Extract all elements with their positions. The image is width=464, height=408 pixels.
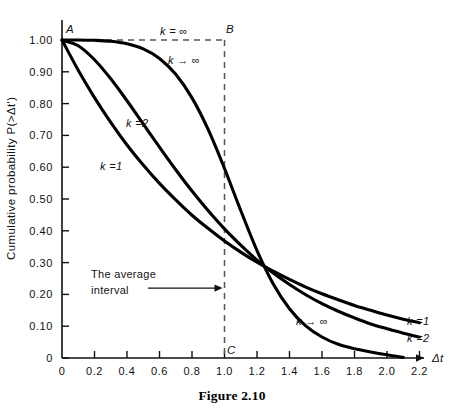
x-tick-label: 1.8 (346, 365, 363, 377)
point-label-a: A (65, 23, 74, 35)
curve-k-infinity (62, 40, 403, 357)
y-tick-label: 0.30 (29, 257, 53, 269)
y-tick-label: 0.70 (29, 129, 53, 141)
x-tick-label: 0.6 (151, 365, 168, 377)
curve-label-k-2-inline: k =2 (126, 117, 148, 129)
x-tick-label: 2.2 (411, 365, 428, 377)
x-tick-label: 0.8 (183, 365, 200, 377)
average-interval-line2: interval (91, 284, 129, 296)
x-tick-label: 1.0 (216, 365, 233, 377)
x-axis-tick-labels: 00.20.40.60.81.01.21.41.61.82.02.2 (59, 365, 428, 377)
figure-root: 00.100.200.300.400.500.600.700.800.901.0… (0, 0, 464, 408)
y-tick-label: 0 (46, 352, 53, 364)
average-interval-arrowhead (215, 284, 223, 291)
y-tick-label: 0.90 (29, 66, 53, 78)
x-tick-label: 2.0 (378, 365, 395, 377)
curves-group (62, 40, 420, 357)
y-tick-label: 0.50 (29, 193, 53, 205)
curve-k-1 (62, 40, 420, 323)
y-axis-title: Cumulative probability P(>Δt') (5, 97, 17, 260)
cumulative-probability-chart: 00.100.200.300.400.500.600.700.800.901.0… (0, 0, 464, 408)
y-axis-tick-labels: 00.100.200.300.400.500.600.700.800.901.0… (29, 34, 53, 364)
y-axis-ticks (62, 40, 69, 358)
x-tick-label: 1.2 (248, 365, 265, 377)
curve-label-k-infinity-upper: k → ∞ (168, 54, 200, 66)
y-tick-label: 0.20 (29, 288, 53, 300)
x-tick-label: 0.4 (118, 365, 135, 377)
curve-label-k-1-right: k =1 (407, 315, 429, 327)
point-label-c: C (227, 344, 236, 356)
y-tick-label: 0.40 (29, 225, 53, 237)
x-axis-title: Δt (431, 352, 444, 364)
curve-label-k-infinity-lower: k → ∞ (296, 315, 328, 327)
average-interval-line1: The average (91, 268, 156, 280)
curve-label-k-1-inline: k =1 (100, 160, 122, 172)
curve-label-k-2-right: k =2 (407, 332, 429, 344)
x-tick-label: 1.6 (313, 365, 330, 377)
reference-box-label: k = ∞ (160, 25, 187, 37)
figure-caption: Figure 2.10 (0, 388, 464, 404)
average-interval-annotation (148, 284, 223, 291)
point-label-b: B (226, 23, 234, 35)
x-tick-label: 0 (59, 365, 66, 377)
y-tick-label: 1.00 (29, 34, 53, 46)
x-tick-label: 0.2 (86, 365, 103, 377)
y-tick-label: 0.10 (29, 320, 53, 332)
y-tick-label: 0.80 (29, 98, 53, 110)
x-tick-label: 1.4 (281, 365, 298, 377)
y-tick-label: 0.60 (29, 161, 53, 173)
